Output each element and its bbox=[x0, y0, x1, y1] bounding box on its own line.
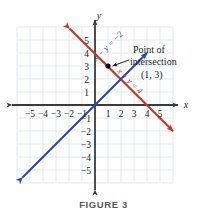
intersection-point-marker bbox=[105, 63, 110, 68]
callout-point-coordinates: (1, 3) bbox=[141, 69, 163, 81]
y-tick-minus-2: −2 bbox=[81, 127, 91, 137]
x-tick-4: 4 bbox=[145, 109, 150, 119]
y-tick-minus-3: −3 bbox=[81, 140, 91, 150]
x-tick-3: 3 bbox=[132, 109, 137, 119]
graph-svg: −5 −4 −3 −2 −1 1 2 3 4 5 5 4 3 2 1 bbox=[0, 0, 207, 198]
x-tick-minus-4: −4 bbox=[38, 109, 48, 119]
x-tick-5: 5 bbox=[158, 109, 163, 119]
x-tick-minus-2: −2 bbox=[64, 109, 74, 119]
y-tick-1: 1 bbox=[84, 88, 89, 98]
x-tick-minus-5: −5 bbox=[25, 109, 35, 119]
y-tick-minus-5: −5 bbox=[81, 166, 91, 176]
y-tick-minus-1: −1 bbox=[81, 114, 91, 124]
x-tick-labels-negative: −5 −4 −3 −2 −1 bbox=[25, 109, 87, 119]
y-tick-4: 4 bbox=[84, 49, 89, 59]
y-tick-2: 2 bbox=[84, 75, 89, 85]
callout-line-2: intersection bbox=[130, 56, 177, 67]
x-tick-minus-3: −3 bbox=[51, 109, 61, 119]
figure-3-container: −5 −4 −3 −2 −1 1 2 3 4 5 5 4 3 2 1 bbox=[0, 0, 207, 223]
y-tick-labels-negative: −1 −2 −3 −4 −5 bbox=[81, 114, 91, 176]
figure-caption: FIGURE 3 bbox=[0, 199, 207, 210]
x-axis-label: x bbox=[183, 99, 189, 110]
y-tick-5: 5 bbox=[84, 36, 89, 46]
x-tick-2: 2 bbox=[119, 109, 124, 119]
x-tick-1: 1 bbox=[106, 109, 111, 119]
y-tick-3: 3 bbox=[84, 62, 89, 72]
y-tick-labels-positive: 5 4 3 2 1 bbox=[84, 36, 89, 98]
y-tick-minus-4: −4 bbox=[81, 153, 91, 163]
y-axis-label: y bbox=[96, 10, 102, 21]
x-tick-labels-positive: 1 2 3 4 5 bbox=[106, 109, 163, 119]
callout-line-1: Point of bbox=[133, 44, 166, 55]
intersection-callout: Point of intersection (1, 3) bbox=[130, 44, 177, 81]
coordinate-plane: −5 −4 −3 −2 −1 1 2 3 4 5 5 4 3 2 1 bbox=[0, 0, 207, 198]
